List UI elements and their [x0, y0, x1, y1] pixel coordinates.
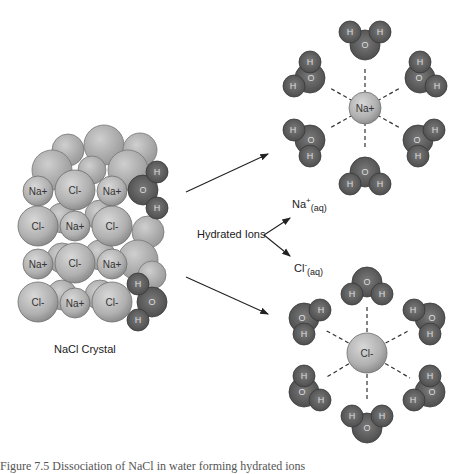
- svg-text:H: H: [135, 315, 142, 325]
- svg-text:H: H: [347, 179, 354, 189]
- svg-text:H: H: [154, 203, 161, 213]
- arrow-to-sodium-label: [264, 218, 290, 235]
- svg-text:Cl-: Cl-: [32, 297, 45, 308]
- svg-text:O: O: [307, 73, 314, 83]
- svg-text:Na+: Na+: [103, 186, 122, 197]
- ion-cl: Cl-: [18, 282, 58, 322]
- ion-na: Na+: [23, 249, 53, 279]
- svg-text:H: H: [290, 81, 297, 91]
- svg-text:H: H: [349, 289, 356, 299]
- svg-text:H: H: [377, 179, 384, 189]
- svg-text:Na+: Na+: [29, 259, 48, 270]
- svg-text:O: O: [139, 185, 146, 195]
- hydrated-sodium: HOH HOH HOH HOH HOH HOH Na+: [283, 21, 447, 195]
- chloride-aq-label: Cl-(aq): [294, 260, 323, 277]
- svg-text:H: H: [307, 57, 314, 67]
- chloride-aq-state: (aq): [307, 267, 323, 277]
- svg-text:O: O: [415, 73, 422, 83]
- svg-text:O: O: [363, 277, 370, 287]
- arrow-to-chloride-label: [264, 235, 290, 256]
- svg-text:O: O: [307, 135, 314, 145]
- svg-text:H: H: [427, 371, 434, 381]
- nacl-crystal: Na+ Cl- Na+ Cl- Na+ Cl- Na+ Cl- Na+ Cl- …: [18, 125, 168, 331]
- svg-text:H: H: [301, 371, 308, 381]
- ion-na: Na+: [60, 211, 90, 241]
- svg-text:H: H: [349, 411, 356, 421]
- svg-text:H: H: [415, 151, 422, 161]
- svg-text:H: H: [417, 57, 424, 67]
- svg-text:Na+: Na+: [103, 259, 122, 270]
- ion-na: Na+: [97, 249, 127, 279]
- ion-cl: Cl-: [55, 170, 95, 210]
- svg-text:O: O: [298, 387, 305, 397]
- hydrated-ions-label: Hydrated Ions: [197, 228, 265, 240]
- ion-na: Na+: [23, 176, 53, 206]
- svg-text:O: O: [298, 313, 305, 323]
- svg-text:Cl-: Cl-: [32, 221, 45, 232]
- arrow-to-sodium-hydrated: [186, 154, 268, 192]
- ion-na: Na+: [97, 176, 127, 206]
- svg-text:H: H: [379, 411, 386, 421]
- svg-text:H: H: [290, 125, 297, 135]
- sodium-ion-label: Na+: [356, 103, 375, 114]
- svg-text:H: H: [318, 395, 325, 405]
- svg-text:H: H: [427, 329, 434, 339]
- chloride-aq-base: Cl: [294, 262, 304, 274]
- svg-text:H: H: [318, 305, 325, 315]
- svg-text:H: H: [135, 279, 142, 289]
- svg-text:O: O: [148, 297, 155, 307]
- svg-text:Cl-: Cl-: [106, 297, 119, 308]
- svg-text:O: O: [361, 167, 368, 177]
- svg-text:O: O: [428, 313, 435, 323]
- sodium-aq-label: Na+(aq): [292, 196, 327, 213]
- hydrated-chloride: HOH HOH HOH HOH HOH HOH Cl-: [289, 267, 445, 443]
- svg-text:Na+: Na+: [66, 221, 85, 232]
- svg-text:O: O: [428, 387, 435, 397]
- svg-text:H: H: [379, 289, 386, 299]
- ion-cl: Cl-: [92, 282, 132, 322]
- svg-text:Na+: Na+: [29, 186, 48, 197]
- crystal-front-layer: Na+ Cl- Na+ Cl- Na+ Cl- Na+ Cl- Na+ Cl- …: [18, 170, 132, 322]
- svg-text:O: O: [361, 40, 368, 50]
- crystal-label: NaCl Crystal: [54, 343, 116, 355]
- svg-text:H: H: [410, 305, 417, 315]
- svg-text:H: H: [307, 151, 314, 161]
- svg-text:Cl-: Cl-: [69, 185, 82, 196]
- svg-text:H: H: [432, 125, 439, 135]
- ion-na: Na+: [60, 288, 90, 318]
- svg-text:Cl-: Cl-: [69, 258, 82, 269]
- arrow-to-chloride-hydrated: [186, 277, 268, 314]
- sodium-aq-base: Na: [292, 198, 306, 210]
- ion-cl: Cl-: [18, 206, 58, 246]
- svg-text:H: H: [410, 395, 417, 405]
- svg-text:H: H: [154, 167, 161, 177]
- figure-caption: Figure 7.5 Dissociation of NaCl in water…: [0, 459, 305, 474]
- chloride-ion-label: Cl-: [361, 348, 374, 359]
- svg-text:Cl-: Cl-: [106, 221, 119, 232]
- ion-cl: Cl-: [92, 206, 132, 246]
- svg-text:H: H: [434, 81, 441, 91]
- svg-text:H: H: [347, 27, 354, 37]
- svg-text:Na+: Na+: [66, 298, 85, 309]
- svg-text:O: O: [363, 423, 370, 433]
- svg-text:O: O: [413, 135, 420, 145]
- sodium-aq-state: (aq): [311, 203, 327, 213]
- ion-cl: Cl-: [55, 243, 95, 283]
- svg-text:H: H: [377, 27, 384, 37]
- svg-text:H: H: [301, 329, 308, 339]
